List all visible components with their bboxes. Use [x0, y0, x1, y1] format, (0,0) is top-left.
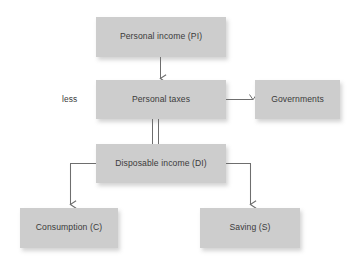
node-personal-taxes[interactable]: Personal taxes — [96, 80, 226, 119]
node-personal-income[interactable]: Personal income (PI) — [96, 17, 226, 57]
node-governments[interactable]: Governments — [255, 80, 340, 119]
flow-chart-canvas: Personal income (PI) Personal taxes Gove… — [0, 0, 360, 269]
node-governments-label: Governments — [271, 95, 324, 105]
node-saving-label: Saving (S) — [229, 223, 270, 233]
connector-taxes-to-disposable — [153, 119, 159, 144]
less-caption: less — [62, 94, 77, 104]
node-saving[interactable]: Saving (S) — [200, 208, 300, 248]
node-personal-taxes-label: Personal taxes — [132, 95, 190, 105]
node-disposable-income[interactable]: Disposable income (DI) — [96, 144, 226, 183]
node-consumption-label: Consumption (C) — [36, 223, 102, 233]
node-personal-income-label: Personal income (PI) — [120, 32, 202, 42]
connector-disposable-to-consumption — [71, 164, 97, 205]
node-disposable-income-label: Disposable income (DI) — [115, 159, 207, 169]
connector-disposable-to-saving — [226, 164, 251, 205]
node-consumption[interactable]: Consumption (C) — [20, 208, 118, 248]
